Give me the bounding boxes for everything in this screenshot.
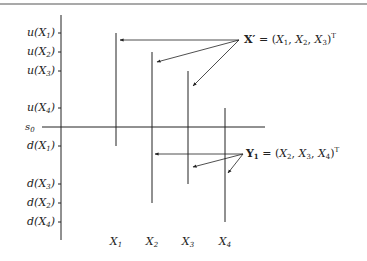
label-u-x3: u(X3) bbox=[0, 65, 55, 77]
label-d-x3: d(X3) bbox=[0, 178, 55, 190]
label-d-x1: d(X1) bbox=[0, 140, 55, 152]
x-prime-arrows bbox=[120, 40, 239, 86]
label-u-x4: u(X4) bbox=[0, 102, 55, 114]
label-x3: X3 bbox=[176, 236, 200, 248]
annotation-x-prime: X′ = (X1, X2, X3)T bbox=[244, 34, 336, 46]
label-x1: X1 bbox=[104, 236, 128, 248]
label-u-x1: u(X1) bbox=[0, 27, 55, 39]
label-d-x2: d(X2) bbox=[0, 197, 55, 209]
label-x2: X2 bbox=[140, 236, 164, 248]
label-d-x4: d(X4) bbox=[0, 216, 55, 228]
label-u-x2: u(X2) bbox=[0, 46, 55, 58]
label-s0: s0 bbox=[25, 121, 35, 133]
y-one-arrows bbox=[155, 154, 243, 173]
annotation-y-one: Y1 = (X2, X3, X4)T bbox=[246, 148, 339, 160]
label-x4: X4 bbox=[213, 236, 237, 248]
